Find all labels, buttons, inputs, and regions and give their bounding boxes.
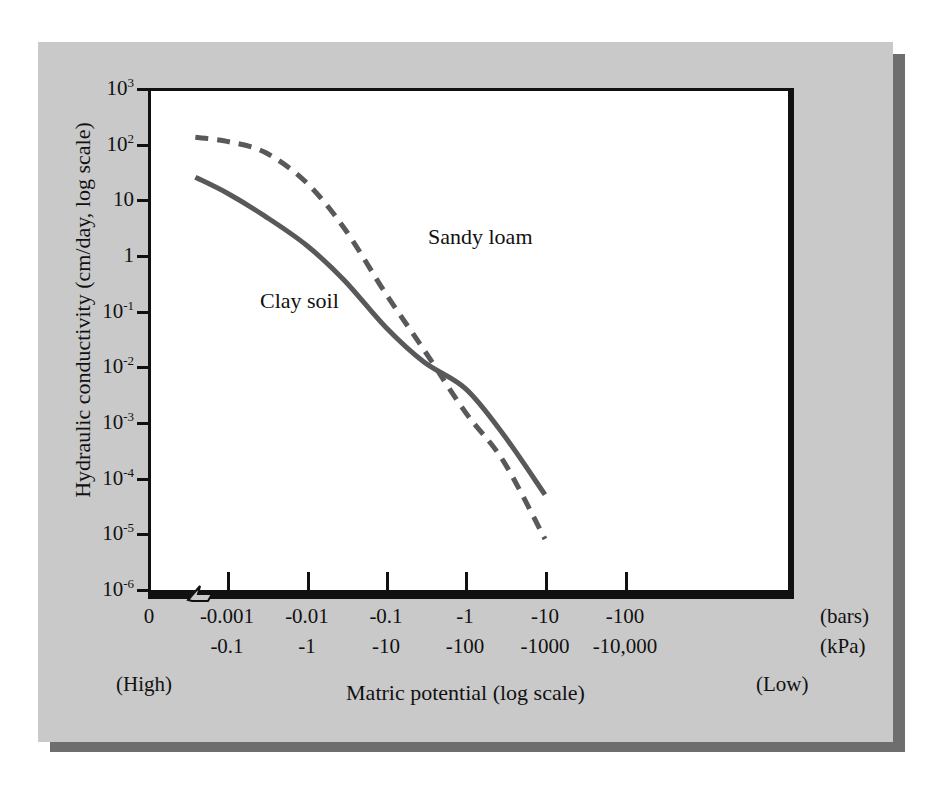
series-label-clay-soil: Clay soil [260, 288, 339, 314]
figure-panel: 103 102 10 1 10-1 10-2 10-3 10-4 10-5 10… [38, 42, 893, 742]
series-label-sandy-loam: Sandy loam [428, 224, 533, 250]
figure-root: 103 102 10 1 10-1 10-2 10-3 10-4 10-5 10… [0, 0, 939, 795]
curves-layer [38, 42, 893, 742]
series-curve-sandy-loam [195, 137, 545, 539]
